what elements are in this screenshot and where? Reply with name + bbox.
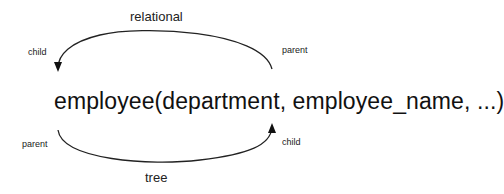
employee-expression: employee(department, employee_name, ...)	[54, 88, 504, 115]
relational-arc	[58, 31, 272, 69]
tree-parent-label: parent	[22, 139, 48, 149]
relational-label: relational	[130, 9, 183, 24]
tree-label: tree	[145, 170, 167, 185]
relational-arrowhead-icon	[54, 62, 62, 72]
tree-arc	[58, 128, 272, 162]
relational-child-label: child	[28, 47, 47, 57]
tree-child-label: child	[282, 137, 301, 147]
tree-arrowhead-icon	[268, 123, 276, 133]
relational-parent-label: parent	[282, 45, 308, 55]
